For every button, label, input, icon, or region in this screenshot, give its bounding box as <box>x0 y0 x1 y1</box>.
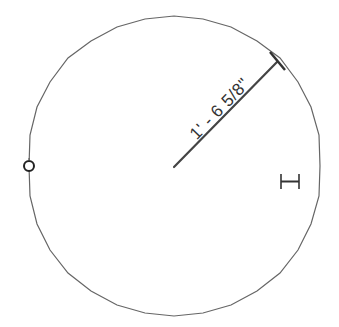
circle-grip-icon[interactable] <box>24 161 34 171</box>
dimension-cursor-icon <box>281 174 299 189</box>
drawing-canvas[interactable] <box>0 0 339 327</box>
